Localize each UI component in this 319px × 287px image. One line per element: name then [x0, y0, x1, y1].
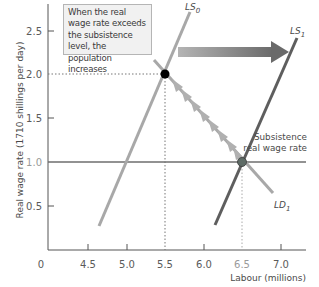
x-ticks: 0 4.5 5.0 5.5 6.0 6.5 7.0 [38, 244, 289, 270]
y-tick-label: 0.5 [26, 201, 42, 212]
x-tick-label: 6.0 [196, 259, 212, 270]
subsistence-label: Subsistence real wage rate [243, 132, 307, 154]
y-tick-label: 2.5 [26, 26, 42, 37]
subsistence-label-line2: real wage rate [243, 143, 307, 154]
y-tick-label: 1.0 [26, 157, 42, 168]
annotation-box: When the real wage rate exceeds the subs… [63, 4, 152, 55]
supply-shift-arrow [178, 41, 289, 63]
y-ticks: 2.5 2.0 1.5 1.0 0.5 [26, 26, 54, 212]
ls1-label: LS1 [290, 26, 305, 39]
initial-equilibrium-point [161, 70, 170, 79]
ls0-label: LS0 [185, 2, 201, 15]
y-axis-title: Real wage rate (1710 shillings per day) [15, 42, 25, 219]
origin-label: 0 [38, 259, 44, 270]
x-tick-label: 5.0 [119, 259, 135, 270]
y-tick-label: 2.0 [26, 69, 42, 80]
x-axis-title: Labour (millions) [230, 273, 306, 283]
y-tick-label: 1.5 [26, 113, 42, 124]
subsistence-equilibrium-point [238, 158, 247, 167]
ld1-label: LD1 [274, 200, 290, 213]
x-tick-label: 7.0 [273, 259, 289, 270]
x-tick-label: 5.5 [157, 259, 173, 270]
subsistence-label-line1: Subsistence [243, 132, 307, 143]
x-tick-label: 4.5 [80, 259, 96, 270]
x-tick-label: 6.5 [234, 259, 250, 270]
